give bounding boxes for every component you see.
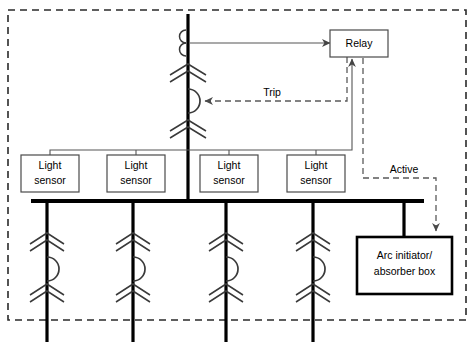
feeder-3-breaker-icon [226, 257, 238, 281]
trip-label: Trip [263, 86, 281, 98]
light-sensor-box-4[interactable]: Light sensor [287, 155, 345, 192]
current-transformer-icon [180, 30, 187, 56]
feeder-4 [296, 201, 330, 342]
relay-label: Relay [346, 37, 374, 49]
light-sensor-2-label-line1: Light [125, 159, 148, 171]
active-label: Active [390, 163, 419, 175]
light-sensor-1-label-line1: Light [39, 159, 62, 171]
electrical-single-line-diagram: Trip Active Relay Light sensor Light sen… [0, 0, 475, 342]
main-circuit-breaker-icon [188, 89, 200, 113]
arc-initiator-absorber-box[interactable]: Arc initiator/ absorber box [357, 237, 452, 294]
feeder-4-breaker-icon [313, 257, 325, 281]
arc-box-label-line1: Arc initiator/ [377, 249, 433, 261]
light-sensor-3-label-line1: Light [218, 159, 241, 171]
light-sensor-4-label-line2: sensor [300, 174, 332, 186]
light-sensor-4-label-line1: Light [305, 159, 328, 171]
arc-box-label-line2: absorber box [374, 265, 436, 277]
light-sensor-box-3[interactable]: Light sensor [200, 155, 258, 192]
light-sensor-3-label-line2: sensor [213, 174, 245, 186]
feeder-1 [30, 201, 64, 342]
diagram-canvas: Trip Active Relay Light sensor Light sen… [0, 0, 475, 342]
feeder-3 [209, 201, 243, 342]
light-sensor-signal-bus [50, 59, 352, 155]
feeder-2-breaker-icon [133, 257, 145, 281]
light-sensor-box-2[interactable]: Light sensor [107, 155, 165, 192]
light-sensor-box-1[interactable]: Light sensor [21, 155, 79, 192]
feeder-2 [116, 201, 150, 342]
active-signal-line [363, 58, 436, 231]
feeder-1-breaker-icon [47, 257, 59, 281]
relay-box[interactable]: Relay [330, 30, 388, 57]
light-sensor-2-label-line2: sensor [120, 174, 152, 186]
light-sensor-1-label-line2: sensor [34, 174, 66, 186]
